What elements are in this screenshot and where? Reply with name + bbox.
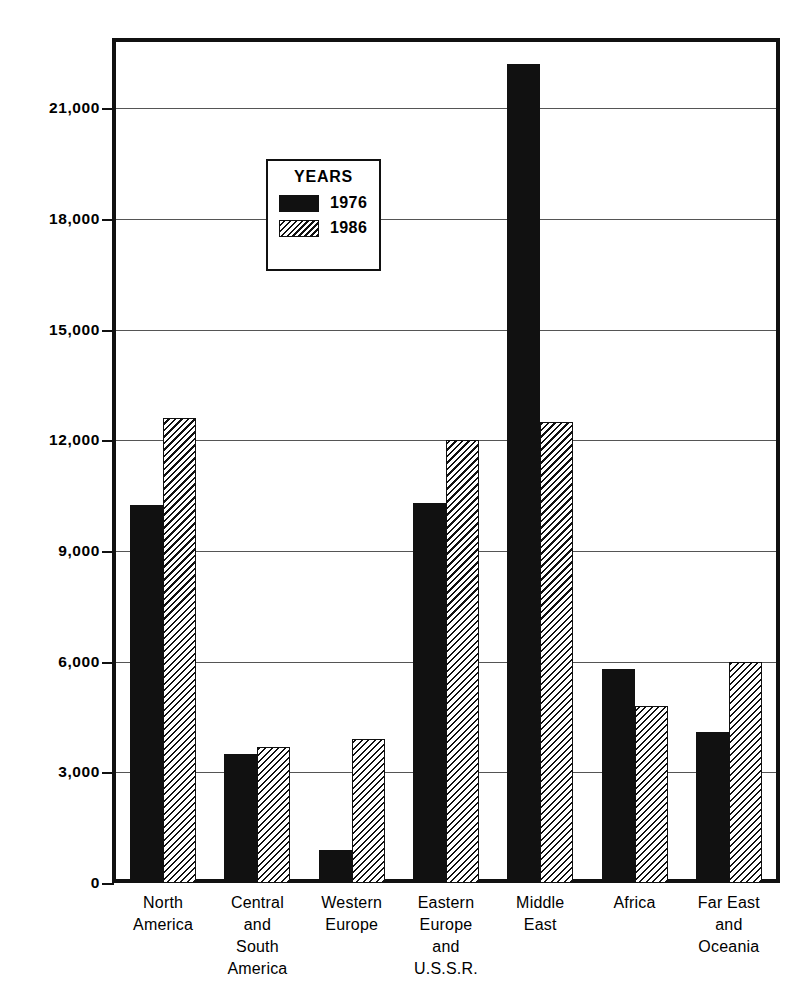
y-tick-label: 21,000 bbox=[49, 99, 100, 117]
x-category-label-line: Middle bbox=[493, 892, 587, 914]
bar-group bbox=[507, 42, 573, 883]
bar-1986 bbox=[352, 739, 385, 883]
x-category-label-line: Far East bbox=[682, 892, 776, 914]
bar-series-container bbox=[116, 42, 776, 883]
bar-1986 bbox=[163, 418, 196, 883]
x-category-label: WesternEurope bbox=[305, 892, 399, 936]
x-category-label-line: America bbox=[116, 914, 210, 936]
y-tick-label: 18,000 bbox=[49, 210, 100, 228]
x-category-label: EasternEuropeandU.S.S.R. bbox=[399, 892, 493, 980]
bar-1976 bbox=[130, 505, 163, 883]
bar-1986 bbox=[257, 747, 290, 883]
bar-chart: THOUSAND BARRELS PER DAY 03,0006,0009,00… bbox=[0, 0, 799, 1004]
x-category-label-line: and bbox=[682, 914, 776, 936]
x-category-label: Africa bbox=[587, 892, 681, 914]
y-tick-label: 15,000 bbox=[49, 321, 100, 339]
x-category-label: CentralandSouthAmerica bbox=[210, 892, 304, 980]
bar-1976 bbox=[319, 850, 352, 883]
x-category-label-line: East bbox=[493, 914, 587, 936]
legend-title: YEARS bbox=[268, 168, 379, 186]
x-category-label-line: U.S.S.R. bbox=[399, 958, 493, 980]
x-category-label-line: America bbox=[210, 958, 304, 980]
y-tick-label: 12,000 bbox=[49, 431, 100, 449]
y-tick-label: 6,000 bbox=[58, 653, 100, 671]
x-category-label-line: Oceania bbox=[682, 936, 776, 958]
x-axis-category-labels: NorthAmericaCentralandSouthAmericaWester… bbox=[116, 892, 776, 1002]
legend-swatch-1986 bbox=[279, 220, 319, 237]
bar-1986 bbox=[729, 662, 762, 883]
bar-group bbox=[130, 42, 196, 883]
bar-1976 bbox=[696, 732, 729, 883]
y-tick-mark bbox=[102, 883, 114, 885]
bar-1976 bbox=[507, 64, 540, 883]
bar-1976 bbox=[224, 754, 257, 883]
legend-item-1986: 1986 bbox=[279, 219, 379, 237]
x-category-label-line: Europe bbox=[305, 914, 399, 936]
x-category-label: NorthAmerica bbox=[116, 892, 210, 936]
x-category-label-line: Central bbox=[210, 892, 304, 914]
plot-area bbox=[116, 42, 776, 883]
y-axis-ticks: 03,0006,0009,00012,00015,00018,00021,000 bbox=[0, 42, 100, 883]
bar-1976 bbox=[602, 669, 635, 883]
x-category-label-line: Europe bbox=[399, 914, 493, 936]
x-category-label-line: and bbox=[399, 936, 493, 958]
y-tick-label: 9,000 bbox=[58, 542, 100, 560]
x-category-label-line: North bbox=[116, 892, 210, 914]
legend-swatch-1976 bbox=[279, 195, 319, 212]
x-category-label-line: Africa bbox=[587, 892, 681, 914]
legend: YEARS 1976 1986 bbox=[266, 159, 381, 271]
x-category-label: MiddleEast bbox=[493, 892, 587, 936]
bar-1986 bbox=[635, 706, 668, 883]
bar-1986 bbox=[540, 422, 573, 883]
x-category-label-line: Western bbox=[305, 892, 399, 914]
x-category-label-line: and bbox=[210, 914, 304, 936]
x-category-label: Far EastandOceania bbox=[682, 892, 776, 958]
bar-1986 bbox=[446, 440, 479, 883]
y-tick-label: 3,000 bbox=[58, 763, 100, 781]
legend-label-1986: 1986 bbox=[330, 219, 367, 237]
bar-group bbox=[696, 42, 762, 883]
bar-group bbox=[413, 42, 479, 883]
legend-item-1976: 1976 bbox=[279, 194, 379, 212]
x-category-label-line: South bbox=[210, 936, 304, 958]
x-category-label-line: Eastern bbox=[399, 892, 493, 914]
legend-label-1976: 1976 bbox=[330, 194, 367, 212]
bar-group bbox=[602, 42, 668, 883]
y-tick-label: 0 bbox=[91, 874, 100, 892]
bar-1976 bbox=[413, 503, 446, 883]
